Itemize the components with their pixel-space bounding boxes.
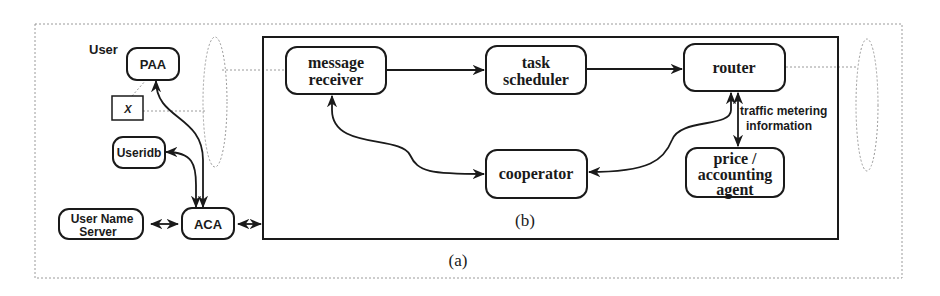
right-ellipse — [856, 39, 878, 171]
useridb-label: Useridb — [117, 146, 162, 160]
user-name-server-label-line1: User Name — [71, 212, 134, 226]
message-receiver-label-line1: message — [308, 54, 364, 72]
traffic-metering-label-line1: traffic metering — [740, 104, 827, 118]
cooperator-label: cooperator — [499, 165, 574, 183]
network-agent-diagram: User PAA X Useridb User Name Server ACA … — [0, 0, 940, 296]
outer-caption: (a) — [449, 251, 468, 270]
user-label: User — [89, 42, 118, 57]
left-ellipse — [203, 37, 227, 167]
edge-receiver-cooperator — [332, 96, 484, 174]
traffic-metering-label-line2: information — [746, 119, 812, 133]
paa-label: PAA — [140, 57, 167, 72]
paa-node: PAA — [127, 48, 179, 80]
price-accounting-agent-node: price / accounting agent — [686, 148, 784, 199]
x-label: X — [123, 103, 132, 115]
router-node: router — [684, 44, 785, 91]
aca-label: ACA — [194, 217, 223, 232]
task-scheduler-label-line2: scheduler — [503, 71, 569, 88]
router-label: router — [712, 59, 755, 76]
edge-useridb-aca — [166, 152, 196, 207]
cooperator-node: cooperator — [486, 150, 587, 198]
inner-caption: (b) — [515, 211, 535, 230]
message-receiver-label-line2: receiver — [309, 71, 364, 88]
task-scheduler-label-line1: task — [522, 54, 551, 71]
aca-node: ACA — [182, 208, 234, 239]
user-name-server-label-line2: Server — [79, 225, 117, 239]
user-name-server-node: User Name Server — [59, 209, 143, 239]
message-receiver-node: message receiver — [286, 47, 386, 94]
task-scheduler-node: task scheduler — [486, 46, 586, 94]
dotted-link-paa-x — [132, 80, 146, 96]
useridb-node: Useridb — [113, 137, 165, 168]
x-node: X — [112, 96, 143, 120]
price-agent-label-line3: agent — [716, 181, 754, 199]
